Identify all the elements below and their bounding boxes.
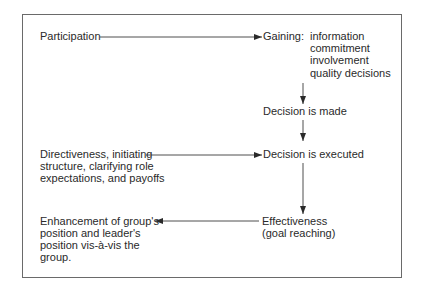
node-decision-made: Decision is made <box>263 105 347 118</box>
node-gaining-label: Gaining: <box>263 30 304 43</box>
node-directiveness-line: Directiveness, initiating <box>40 148 153 161</box>
node-directiveness-line: structure, clarifying role <box>40 160 154 173</box>
gaining-item: involvement <box>310 54 369 67</box>
node-enhancement-line: Enhancement of group's <box>40 215 159 228</box>
gaining-item: quality decisions <box>310 67 391 80</box>
node-enhancement-line: position and leader's <box>40 227 141 240</box>
gaining-item: commitment <box>310 42 370 55</box>
node-enhancement-line: position vis-à-vis the <box>40 239 140 252</box>
node-decision-executed: Decision is executed <box>263 148 364 161</box>
node-directiveness-line: expectations, and payoffs <box>40 172 165 185</box>
node-participation: Participation <box>40 30 101 43</box>
node-enhancement-line: group. <box>40 251 71 264</box>
gaining-item: information <box>310 30 364 43</box>
node-effectiveness-sub: (goal reaching) <box>262 227 335 240</box>
node-effectiveness: Effectiveness <box>262 215 327 228</box>
